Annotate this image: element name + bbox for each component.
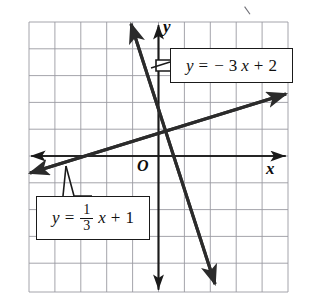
y-axis-label: y xyxy=(163,17,171,37)
x-axis-label: x xyxy=(266,159,275,179)
eq2-fraction-denominator: 3 xyxy=(80,219,93,233)
eq1-variable: x xyxy=(241,56,249,76)
eq2-variable: x xyxy=(98,208,106,228)
stray-tick-mark xyxy=(244,6,251,15)
eq2-equals: = xyxy=(64,208,76,228)
equation-label-line2: y = 1 3 x + 1 xyxy=(36,196,150,240)
eq2-plus-sign: + xyxy=(110,208,122,228)
eq2-intercept: 1 xyxy=(125,208,134,228)
callout-leader-line2 xyxy=(66,166,92,196)
eq1-slope: 3 xyxy=(229,56,238,76)
origin-label: O xyxy=(137,157,149,175)
eq1-intercept: 2 xyxy=(268,56,277,76)
eq1-y: y xyxy=(186,56,194,76)
eq2-fraction-numerator: 1 xyxy=(80,203,93,218)
eq1-equals: = xyxy=(198,56,210,76)
eq1-minus-sign: − xyxy=(213,56,225,76)
graph-figure: y x O y = − 3 x + 2 y = 1 3 x + 1 xyxy=(0,0,310,307)
callout-leader-line2-left xyxy=(63,166,66,196)
graph-canvas xyxy=(0,0,310,307)
eq2-y: y xyxy=(52,208,60,228)
eq2-fraction-one-third: 1 3 xyxy=(80,203,93,233)
equation-label-line1: y = − 3 x + 2 xyxy=(170,48,293,83)
eq1-plus-sign: + xyxy=(253,56,265,76)
